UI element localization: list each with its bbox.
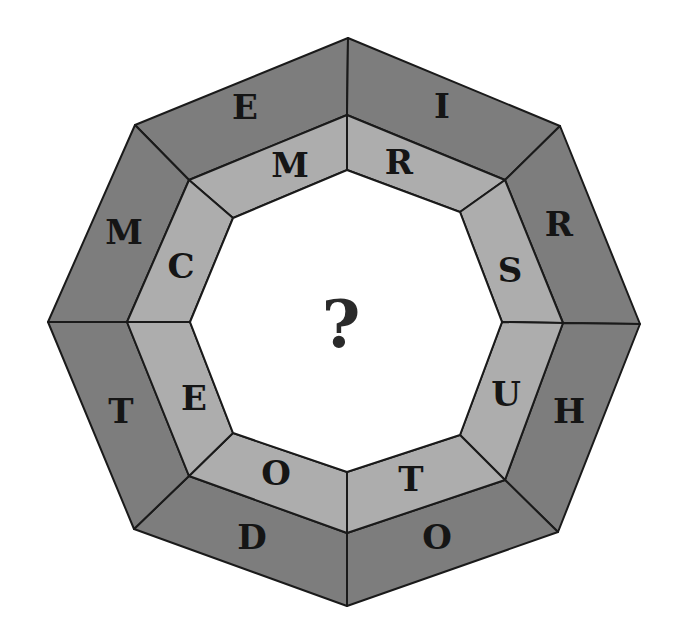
inner-letter-top-left: M	[271, 145, 309, 185]
inner-letter-right-lower: U	[491, 374, 521, 414]
inner-letter-bottom-right: T	[398, 459, 423, 499]
inner-letter-left-lower: E	[181, 378, 207, 418]
outer-letter-right-lower: H	[553, 391, 585, 431]
outer-letter-left-lower: T	[108, 391, 133, 431]
outer-letter-right-upper: R	[545, 204, 574, 244]
inner-letter-left-upper: C	[167, 246, 194, 286]
inner-letter-top-right: R	[385, 142, 414, 182]
outer-letter-top-left: E	[232, 87, 258, 127]
question-mark: ?	[322, 285, 361, 363]
inner-letter-bottom-left: O	[261, 453, 291, 493]
inner-letter-right-upper: S	[498, 250, 523, 290]
outer-letter-bottom-left: D	[237, 517, 266, 557]
outer-letter-top-right: I	[434, 86, 450, 126]
outer-letter-bottom-right: O	[422, 517, 452, 557]
outer-letter-left-upper: M	[105, 212, 143, 252]
octagon-puzzle: E I R H O D T M M R S U T O E C ?	[0, 0, 688, 643]
